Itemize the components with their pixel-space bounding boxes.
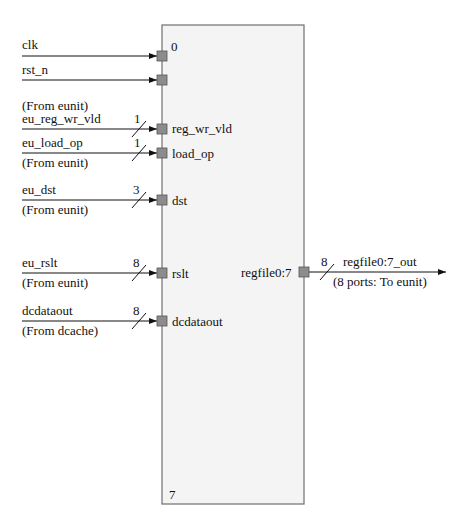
input-rst-n: rst_n xyxy=(22,62,167,85)
bus-width-rslt: 8 xyxy=(133,255,140,270)
port-label-rslt: rslt xyxy=(172,266,189,281)
port-clk[interactable] xyxy=(157,51,167,61)
port-load-op[interactable] xyxy=(157,148,167,158)
port-label-dst: dst xyxy=(172,193,188,208)
port-label-regfile: regfile0:7 xyxy=(241,265,292,280)
port-rst-n[interactable] xyxy=(157,75,167,85)
bus-width-reg-wr-vld: 1 xyxy=(134,111,141,126)
signal-label-rst-n: rst_n xyxy=(22,62,49,77)
signal-label-regfile-out: regfile0:7_out xyxy=(343,254,417,269)
input-clk: clk xyxy=(22,37,167,61)
signal-label-clk: clk xyxy=(22,37,38,52)
port-reg-wr-vld[interactable] xyxy=(157,124,167,134)
bus-width-dst: 3 xyxy=(133,182,140,197)
source-label-dst: (From eunit) xyxy=(22,202,88,217)
bus-width-load-op: 1 xyxy=(134,135,141,150)
signal-label-rslt: eu_rslt xyxy=(22,255,58,270)
destination-label-regfile-out: (8 ports: To eunit) xyxy=(333,274,427,289)
port-dcdataout[interactable] xyxy=(157,316,167,326)
port-label-reg-wr-vld: reg_wr_vld xyxy=(172,121,232,136)
block-top-index: 0 xyxy=(171,39,178,54)
port-label-dcdataout: dcdataout xyxy=(172,314,223,329)
port-regfile[interactable] xyxy=(299,267,309,277)
block-diagram: 0 7 clk rst_n (From eunit) eu_reg_wr_vld… xyxy=(0,0,455,523)
source-label-load-op: (From eunit) xyxy=(22,155,88,170)
signal-label-dcdataout: dcdataout xyxy=(22,303,73,318)
source-label-rslt: (From eunit) xyxy=(22,275,88,290)
bus-width-dcdataout: 8 xyxy=(133,303,140,318)
bus-width-regfile-out: 8 xyxy=(321,254,328,269)
port-rslt[interactable] xyxy=(157,268,167,278)
signal-label-load-op: eu_load_op xyxy=(22,135,83,150)
signal-label-reg-wr-vld: eu_reg_wr_vld xyxy=(22,111,101,126)
port-label-load-op: load_op xyxy=(172,146,214,161)
port-dst[interactable] xyxy=(157,195,167,205)
signal-label-dst: eu_dst xyxy=(22,182,56,197)
block-bottom-index: 7 xyxy=(169,487,176,502)
source-label-dcdataout: (From dcache) xyxy=(22,323,98,338)
